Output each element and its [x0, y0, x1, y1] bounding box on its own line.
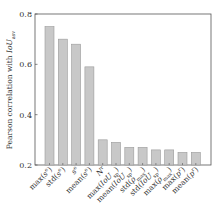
y-tick-label: 0.2	[19, 161, 32, 170]
y-tick-label: 0.6	[19, 60, 32, 69]
bar	[125, 147, 134, 165]
bar	[58, 39, 67, 165]
y-axis-label: Pearson correlation with IoUasv	[5, 31, 16, 150]
x-axis-labels: max(se)std(se)semean(se)Nrmax(IoUsp)mean…	[27, 164, 201, 206]
bar	[45, 27, 54, 165]
bar	[165, 150, 174, 165]
bar	[112, 142, 121, 165]
bars	[45, 27, 200, 165]
bar	[98, 140, 107, 165]
bar	[85, 67, 94, 165]
y-tick-label: 0.4	[19, 111, 32, 120]
bar-chart: 0.20.40.60.8 max(se)std(se)semean(se)Nrm…	[0, 0, 221, 220]
bar	[72, 44, 81, 165]
bar	[138, 147, 147, 165]
bar	[151, 150, 160, 165]
y-tick-label: 0.8	[19, 10, 32, 19]
